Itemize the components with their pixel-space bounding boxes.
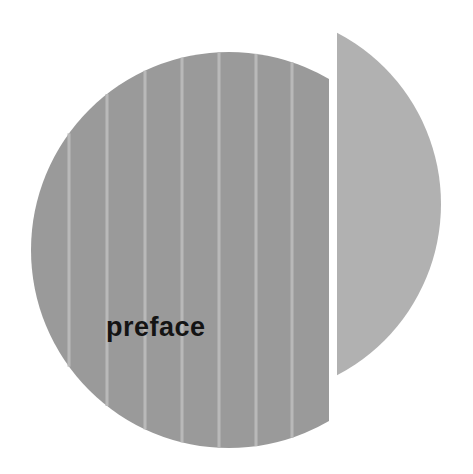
preface-title: preface	[106, 312, 206, 343]
stripe	[218, 52, 221, 447]
stripe	[181, 58, 184, 443]
stripe	[68, 133, 71, 366]
preface-emblem	[0, 0, 473, 474]
stripe	[106, 94, 109, 406]
stripe	[144, 71, 147, 430]
stripe	[255, 54, 258, 446]
stripe	[291, 62, 294, 437]
